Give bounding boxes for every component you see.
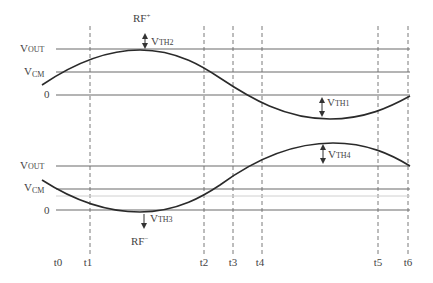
vth2-label: VTH2 [151,35,174,47]
upper-vcm-label: VCM [24,65,44,79]
upper-vout-label: VOUT [20,42,45,54]
vth3-label: VTH3 [150,212,173,224]
time-label-t0: t0 [54,256,63,268]
timing-diagram: VOUT VCM 0 RF+ VTH2 VTH1 VOUT VCM 0 VTH3… [0,0,433,283]
rf-minus-curve [42,143,410,212]
time-label-t5: t5 [374,256,383,268]
lower-vcm-label: VCM [24,181,44,195]
lower-vout-label: VOUT [20,159,45,171]
time-label-t3: t3 [229,256,238,268]
rf-minus-label: RF− [131,235,148,247]
time-labels: t0 t1 t2 t3 t4 t5 t6 [54,256,413,268]
rf-plus-label: RF+ [133,12,150,24]
time-label-t1: t1 [84,256,93,268]
vth4-label: VTH4 [328,148,351,160]
vth1-label: VTH1 [327,96,350,108]
lower-zero-label: 0 [44,204,50,216]
time-marker-lines [90,26,408,255]
time-label-t2: t2 [200,256,209,268]
time-label-t4: t4 [256,256,265,268]
rf-plus-curve [42,50,410,119]
time-label-t6: t6 [404,256,413,268]
upper-zero-label: 0 [44,88,50,100]
